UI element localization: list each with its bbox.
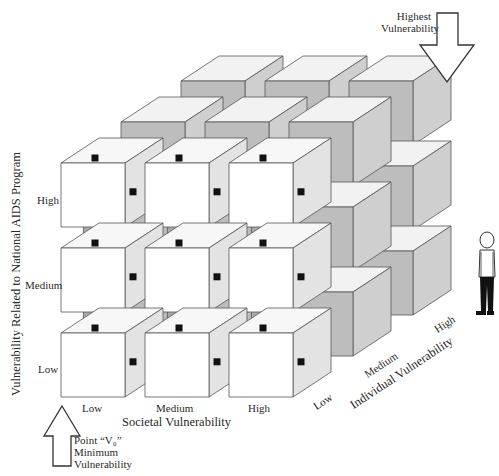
connector-marker-icon	[298, 358, 305, 365]
connector-marker-icon	[92, 240, 99, 247]
y-tick-low: Low	[38, 363, 58, 375]
connector-marker-icon	[92, 325, 99, 332]
connector-marker-icon	[176, 325, 183, 332]
cube-front-face	[229, 163, 293, 227]
connector-marker-icon	[176, 155, 183, 162]
y-tick-high: High	[37, 194, 59, 206]
y-axis-title: Vulnerability Related to National AIDS P…	[10, 152, 22, 396]
cube-front-face	[229, 248, 293, 312]
cube-front-face	[61, 333, 125, 397]
origin-label-line2: Minimum	[74, 446, 132, 458]
connector-marker-icon	[214, 188, 221, 195]
connector-marker-icon	[176, 240, 183, 247]
origin-label: Point “V₀” Minimum Vulnerability	[74, 434, 132, 470]
cube-front-face	[145, 163, 209, 227]
highest-label: Highest Vulnerability	[381, 10, 431, 34]
origin-label-line3: Vulnerability	[74, 458, 132, 470]
connector-marker-icon	[130, 273, 137, 280]
x-tick-high: High	[248, 402, 270, 414]
cube-front-face	[61, 248, 125, 312]
y-tick-medium: Medium	[25, 279, 62, 291]
connector-marker-icon	[92, 155, 99, 162]
cube-front-face	[61, 163, 125, 227]
cube-front-face	[145, 333, 209, 397]
person-figure-icon	[476, 232, 495, 315]
highest-label-line2: Vulnerability	[381, 22, 431, 34]
cube-front-face	[145, 248, 209, 312]
connector-marker-icon	[298, 273, 305, 280]
connector-marker-icon	[130, 358, 137, 365]
connector-marker-icon	[214, 273, 221, 280]
connector-marker-icon	[260, 155, 267, 162]
connector-marker-icon	[260, 240, 267, 247]
connector-marker-icon	[298, 188, 305, 195]
cube-front-face	[229, 333, 293, 397]
connector-marker-icon	[260, 325, 267, 332]
connector-marker-icon	[130, 188, 137, 195]
connector-marker-icon	[214, 358, 221, 365]
highest-label-line1: Highest	[381, 10, 431, 22]
x-tick-medium: Medium	[156, 402, 193, 414]
cube-grid	[61, 56, 451, 397]
x-tick-low: Low	[82, 402, 102, 414]
x-axis-title: Societal Vulnerability	[122, 416, 231, 428]
origin-label-line1: Point “V₀”	[74, 434, 132, 446]
